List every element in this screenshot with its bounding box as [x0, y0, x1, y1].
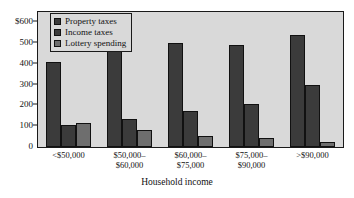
y-tick-mark	[33, 83, 37, 84]
bar	[259, 138, 274, 147]
x-tick-label: $50,000–$60,000	[99, 150, 160, 170]
x-axis: <$50,000$50,000–$60,000$60,000–$75,000$7…	[38, 150, 343, 170]
x-axis-title: Household income	[0, 177, 354, 187]
legend-swatch-icon	[54, 18, 61, 25]
legend: Property taxesIncome taxesLottery spendi…	[50, 13, 132, 52]
bar	[122, 119, 137, 147]
bar	[229, 45, 244, 147]
bar-group	[282, 12, 343, 147]
y-axis: 0100200300400500$600	[0, 11, 33, 148]
y-tick-label: 500	[20, 38, 34, 47]
bar	[290, 35, 305, 147]
y-tick-mark	[33, 21, 37, 22]
bar	[46, 62, 61, 147]
bar	[305, 85, 320, 147]
legend-swatch-icon	[54, 29, 61, 36]
bar-group	[160, 12, 221, 147]
x-tick-label: >$90,000	[282, 150, 343, 170]
bar-chart: 0100200300400500$600 <$50,000$50,000–$60…	[0, 0, 354, 198]
bar	[137, 130, 152, 147]
y-tick-mark	[33, 104, 37, 105]
x-tick-label: $60,000–$75,000	[160, 150, 221, 170]
bar	[244, 104, 259, 147]
legend-item: Property taxes	[54, 16, 126, 27]
legend-label: Lottery spending	[65, 38, 126, 49]
bar	[107, 43, 122, 147]
bar-group	[221, 12, 282, 147]
x-tick-label: <$50,000	[38, 150, 99, 170]
legend-label: Property taxes	[65, 16, 117, 27]
bar	[183, 111, 198, 147]
bar	[198, 136, 213, 147]
y-tick-label: 200	[20, 100, 34, 109]
bar	[168, 43, 183, 147]
y-tick-mark	[33, 62, 37, 63]
y-tick-label: 100	[20, 121, 34, 130]
legend-swatch-icon	[54, 40, 61, 47]
y-tick-label: 400	[20, 58, 34, 67]
y-tick-mark	[33, 125, 37, 126]
bar	[61, 125, 76, 147]
y-tick-mark	[33, 42, 37, 43]
x-tick-label: $75,000–$90,000	[221, 150, 282, 170]
y-tick-label: 0	[29, 142, 34, 151]
y-tick-label: $600	[15, 17, 33, 26]
legend-item: Lottery spending	[54, 38, 126, 49]
legend-item: Income taxes	[54, 27, 126, 38]
bar	[320, 142, 335, 147]
bar	[76, 123, 91, 147]
y-tick-label: 300	[20, 79, 34, 88]
legend-label: Income taxes	[65, 27, 113, 38]
